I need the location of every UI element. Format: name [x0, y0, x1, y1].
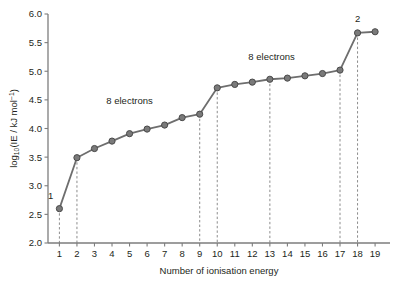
- y-tick-label: 4.5: [29, 94, 42, 105]
- x-tick-label: 3: [92, 248, 97, 259]
- x-tick-label: 17: [335, 248, 346, 259]
- data-point: [267, 76, 273, 82]
- y-tick-label: 5.0: [29, 66, 42, 77]
- y-tick-label: 4.0: [29, 123, 42, 134]
- data-point: [91, 145, 97, 151]
- shell-count-8-outer: 8 electrons: [248, 51, 295, 62]
- x-tick-label: 9: [197, 248, 202, 259]
- data-point: [56, 206, 62, 212]
- shell-count-2: 2: [355, 13, 360, 24]
- x-tick-label: 14: [282, 248, 293, 259]
- data-point: [179, 115, 185, 121]
- y-tick-label: 2.5: [29, 209, 42, 220]
- data-point: [354, 30, 360, 36]
- data-point: [162, 122, 168, 128]
- data-point: [126, 131, 132, 137]
- y-tick-label: 6.0: [29, 8, 42, 19]
- y-axis-title: log10(IE / kJ mol−1): [8, 89, 21, 168]
- x-tick-label: 18: [352, 248, 363, 259]
- data-point: [319, 70, 325, 76]
- y-tick-label: 2.0: [29, 237, 42, 248]
- x-tick-label: 4: [109, 248, 114, 259]
- data-point: [214, 85, 220, 91]
- data-point: [249, 79, 255, 85]
- y-tick-label: 5.5: [29, 37, 42, 48]
- data-point: [74, 155, 80, 161]
- data-point: [197, 111, 203, 117]
- data-point: [372, 29, 378, 35]
- x-tick-label: 16: [317, 248, 328, 259]
- x-tick-label: 6: [144, 248, 149, 259]
- x-tick-label: 1: [57, 248, 62, 259]
- y-tick-label: 3.0: [29, 180, 42, 191]
- x-tick-label: 19: [370, 248, 381, 259]
- data-point: [232, 81, 238, 87]
- x-tick-label: 10: [212, 248, 223, 259]
- x-tick-label: 13: [265, 248, 276, 259]
- data-point: [337, 67, 343, 73]
- shell-count-8-inner: 8 electrons: [106, 95, 153, 106]
- data-point: [109, 138, 115, 144]
- x-tick-label: 8: [180, 248, 185, 259]
- x-tick-label: 2: [74, 248, 79, 259]
- data-point: [144, 126, 150, 132]
- data-point: [284, 75, 290, 81]
- shell-count-1: 1: [48, 190, 53, 201]
- x-tick-label: 15: [300, 248, 311, 259]
- x-tick-label: 7: [162, 248, 167, 259]
- x-tick-label: 5: [127, 248, 132, 259]
- x-tick-label: 12: [247, 248, 258, 259]
- y-tick-label: 3.5: [29, 152, 42, 163]
- chart-background: [0, 0, 396, 282]
- x-tick-label: 11: [230, 248, 240, 259]
- chart-canvas: 12345678910111213141516171819 2.02.53.03…: [0, 0, 396, 282]
- ionisation-energy-chart: 12345678910111213141516171819 2.02.53.03…: [0, 0, 396, 282]
- x-axis-title: Number of ionisation energy: [160, 265, 279, 276]
- data-point: [302, 73, 308, 79]
